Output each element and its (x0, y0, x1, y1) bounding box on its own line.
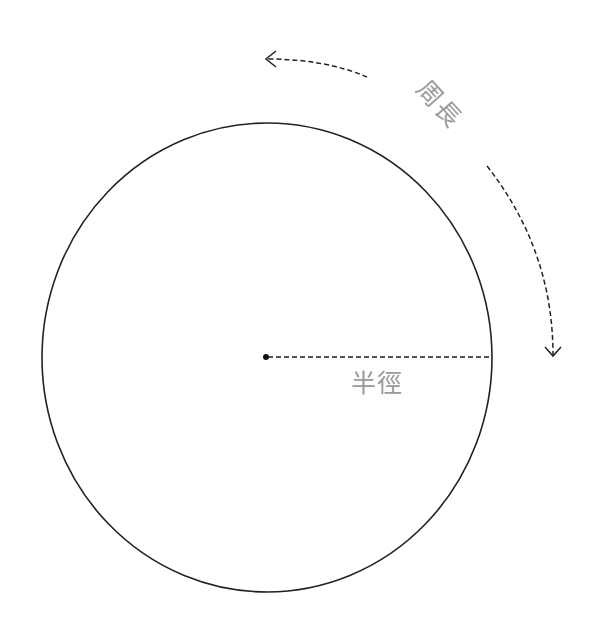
radius-label: 半徑 (351, 371, 403, 396)
arrow-top-curve (267, 59, 367, 77)
circle-diagram (0, 0, 603, 633)
arrow-right-curve (487, 166, 553, 355)
circumference-arrow-right (487, 166, 561, 356)
center-point (263, 354, 269, 360)
circumference-arrow-top (266, 51, 367, 77)
